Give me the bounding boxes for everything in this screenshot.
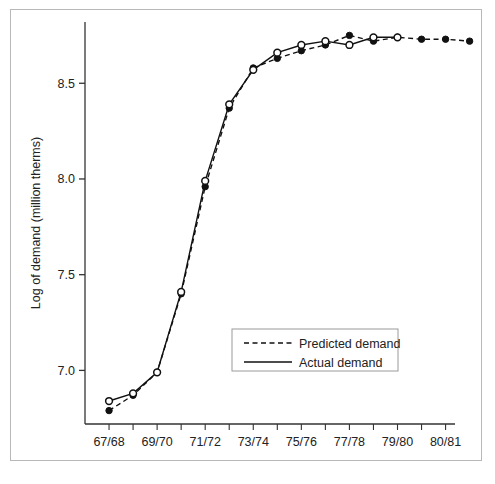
data-point-actual xyxy=(202,177,209,184)
x-tick-label: 77/78 xyxy=(334,435,365,449)
data-point-actual xyxy=(250,66,257,73)
data-point-predicted xyxy=(466,38,472,44)
chart-canvas: 7.07.58.08.567/6869/7071/7273/7475/7677/… xyxy=(0,0,495,484)
x-tick-label: 75/76 xyxy=(286,435,317,449)
data-point-predicted xyxy=(106,407,112,413)
y-tick-label: 7.0 xyxy=(58,364,75,378)
x-tick-label: 69/70 xyxy=(141,435,172,449)
data-point-actual xyxy=(178,289,185,296)
data-point-actual xyxy=(298,42,305,49)
legend-label-actual-demand: Actual demand xyxy=(299,356,382,370)
data-point-predicted xyxy=(346,32,352,38)
x-tick-label: 79/80 xyxy=(382,435,413,449)
y-tick-label: 8.0 xyxy=(58,172,75,186)
data-point-actual xyxy=(322,38,329,45)
data-point-predicted xyxy=(418,36,424,42)
x-tick-label: 71/72 xyxy=(190,435,221,449)
data-point-actual xyxy=(154,369,161,376)
data-point-actual xyxy=(226,101,233,108)
legend-label-predicted-demand: Predicted demand xyxy=(299,337,401,351)
y-tick-label: 7.5 xyxy=(58,268,75,282)
figure-container: 7.07.58.08.567/6869/7071/7273/7475/7677/… xyxy=(0,0,495,484)
x-tick-label: 67/68 xyxy=(93,435,124,449)
data-point-actual xyxy=(370,34,377,41)
data-point-actual xyxy=(394,34,401,41)
data-point-actual xyxy=(346,42,353,49)
data-point-actual xyxy=(274,49,281,56)
y-tick-label: 8.5 xyxy=(58,77,75,91)
y-axis-title: Log of demand (million therms) xyxy=(29,137,43,309)
x-tick-label: 73/74 xyxy=(238,435,269,449)
data-point-predicted xyxy=(442,36,448,42)
x-tick-label: 80/81 xyxy=(430,435,461,449)
data-point-actual xyxy=(106,398,113,405)
data-point-actual xyxy=(130,390,137,397)
